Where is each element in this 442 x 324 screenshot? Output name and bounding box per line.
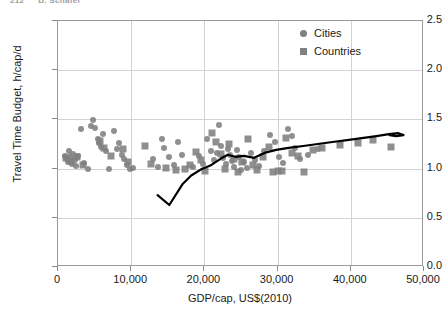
data-point-countries [230, 155, 237, 162]
x-tick-mark [350, 266, 351, 271]
data-point-cities [211, 157, 217, 163]
gridline-vertical [278, 21, 279, 265]
legend-square-icon [300, 48, 307, 55]
data-point-countries [217, 150, 224, 157]
x-tick-mark [203, 266, 204, 271]
data-point-cities [78, 126, 84, 132]
data-point-cities [130, 165, 136, 171]
data-point-cities [285, 126, 291, 132]
legend-label-cities: Cities [314, 27, 342, 39]
x-tick-label: 0 [54, 273, 60, 285]
data-point-cities [267, 132, 273, 138]
data-point-countries [147, 160, 154, 167]
data-point-cities [114, 146, 120, 152]
x-tick-label: 10,000 [113, 273, 147, 285]
x-tick-mark [423, 266, 424, 271]
data-point-countries [74, 153, 81, 160]
chart-figure: 212D. Schäfer Travel Time Budget, h/cap/… [0, 0, 442, 324]
data-point-countries [221, 165, 228, 172]
gridline-horizontal [58, 70, 422, 71]
x-tick-mark [130, 266, 131, 271]
data-point-countries [172, 166, 179, 173]
gridline-vertical [204, 21, 205, 265]
data-point-countries [142, 142, 149, 149]
gridline-horizontal [58, 119, 422, 120]
x-tick-label: 20,000 [187, 273, 221, 285]
data-point-countries [226, 141, 233, 148]
data-point-cities [100, 131, 106, 137]
plot-area [57, 20, 423, 266]
data-point-countries [193, 148, 200, 155]
data-point-countries [388, 143, 395, 150]
x-tick-label: 50,000 [406, 273, 440, 285]
data-point-cities [90, 117, 96, 123]
chart-legend: Cities Countries [300, 24, 361, 60]
data-point-countries [125, 158, 132, 165]
data-point-countries [239, 158, 246, 165]
data-point-countries [235, 168, 242, 175]
data-point-countries [245, 136, 252, 143]
data-point-countries [295, 152, 302, 159]
legend-item-cities: Cities [300, 24, 361, 42]
x-tick-mark [277, 266, 278, 271]
x-axis-title: GDP/cap, US$(2010) [57, 292, 423, 304]
data-point-countries [208, 130, 215, 137]
data-point-cities [111, 128, 117, 134]
x-tick-mark [57, 266, 58, 271]
data-point-countries [355, 140, 362, 147]
legend-circle-icon [300, 30, 307, 37]
data-point-countries [186, 161, 193, 168]
x-tick-label: 40,000 [333, 273, 367, 285]
data-point-countries [300, 168, 307, 175]
data-point-cities [161, 145, 167, 151]
data-point-cities [280, 160, 286, 166]
data-point-cities [179, 152, 185, 158]
data-point-cities [92, 125, 98, 131]
y-axis-title: Travel Time Budget, h/cap/d [11, 4, 23, 224]
data-point-countries [259, 153, 266, 160]
data-point-countries [318, 144, 325, 151]
x-tick-label: 30,000 [260, 273, 294, 285]
data-point-countries [197, 156, 204, 163]
data-point-countries [278, 167, 285, 174]
data-point-cities [248, 150, 254, 156]
data-point-countries [336, 141, 343, 148]
data-point-countries [202, 167, 209, 174]
trendline [58, 21, 424, 267]
data-point-countries [213, 139, 220, 146]
data-point-countries [120, 145, 127, 152]
data-point-cities [234, 147, 240, 153]
data-point-cities [106, 166, 112, 172]
data-point-cities [166, 154, 172, 160]
data-point-cities [272, 139, 278, 145]
data-point-countries [163, 164, 170, 171]
data-point-cities [155, 164, 161, 170]
data-point-cities [175, 139, 181, 145]
gridline-vertical [131, 21, 132, 265]
data-point-cities [276, 154, 282, 160]
data-point-countries [107, 152, 114, 159]
data-point-countries [254, 166, 261, 173]
header-running-title: D. Schäfer [38, 0, 81, 5]
data-point-countries [101, 144, 108, 151]
data-point-countries [283, 135, 290, 142]
data-point-countries [79, 161, 86, 168]
data-point-cities [159, 136, 165, 142]
legend-item-countries: Countries [300, 42, 361, 60]
data-point-cities [204, 136, 210, 142]
data-point-countries [309, 146, 316, 153]
gridline-horizontal [58, 218, 422, 219]
data-point-cities [216, 122, 222, 128]
legend-label-countries: Countries [314, 45, 361, 57]
data-point-countries [369, 137, 376, 144]
data-point-countries [265, 143, 272, 150]
